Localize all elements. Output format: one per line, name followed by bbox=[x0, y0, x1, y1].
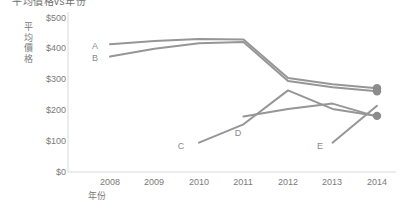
series-line-c bbox=[199, 90, 377, 142]
endpoint-dot-b bbox=[373, 87, 381, 95]
endpoint-dot-c bbox=[373, 112, 381, 120]
series-line-e bbox=[333, 106, 378, 143]
series-line-a bbox=[110, 39, 377, 88]
plot-area bbox=[0, 0, 400, 216]
series-endpoint-dots bbox=[373, 84, 381, 120]
chart-container: 平均價格vs年份 平 均 價 格 $500 $400 $300 $200 $10… bbox=[0, 0, 400, 216]
series-paths bbox=[110, 39, 377, 143]
